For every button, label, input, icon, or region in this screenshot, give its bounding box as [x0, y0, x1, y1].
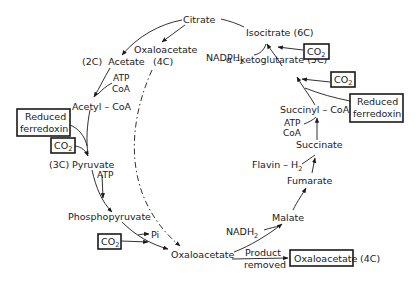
node-fumarate: Fumarate: [287, 175, 332, 186]
line-co2-right-2: [302, 79, 330, 82]
svg-text:Oxaloacetate: Oxaloacetate: [294, 253, 358, 264]
node-malate: Malate: [272, 212, 304, 223]
node-succinate: Succinate: [296, 139, 343, 150]
node-citrate: Citrate: [183, 14, 215, 25]
cofactor-atp-right: ATP: [284, 118, 301, 128]
arrow-acetyl-coa-to-pyruvate: [87, 110, 90, 154]
node-isocitrate: Isocitrate (6C): [246, 27, 314, 38]
svg-text:Reduced: Reduced: [357, 96, 398, 107]
label-removed: removed: [244, 259, 286, 270]
cofactor-pi: Pi: [151, 229, 159, 240]
arrow-atp-coa-right: [304, 117, 316, 124]
node-pyruvate: (3C) Pyruvate: [49, 159, 115, 170]
node-acetyl-coa: Acetyl – CoA: [72, 101, 132, 112]
arrow-acetate-to-acetyl-coa: [94, 68, 110, 97]
svg-text:Reduced: Reduced: [25, 111, 66, 122]
line-co2-right-1: [278, 47, 303, 50]
reductive-tca-cycle-diagram: Citrate Isocitrate (6C) α –ketoglutarate…: [0, 0, 420, 285]
line-co2-left: [75, 146, 88, 156]
node-succinyl-coa: Succinyl – CoA: [280, 104, 350, 115]
label-product-carbons: (4C): [360, 253, 380, 264]
node-phosphopyruvate: Phosphopyruvate: [68, 211, 151, 222]
line-co2-bottom: [121, 241, 148, 242]
svg-text:ferredoxin: ferredoxin: [20, 123, 68, 134]
arrow-nadh2: [264, 226, 280, 230]
box-product-oxaloacetate: Oxaloacetate: [290, 250, 358, 266]
svg-text:ferredoxin: ferredoxin: [353, 108, 401, 119]
arrow-citrate-to-oxaloacetate-top: [162, 25, 185, 42]
box-co2-right-1: CO2: [304, 44, 329, 59]
cofactor-coa-left: CoA: [112, 84, 131, 94]
cofactor-nadh2: NADH2: [226, 226, 258, 240]
arrow-atp-coa-acetyl: [98, 83, 112, 94]
box-co2-bottom: CO2: [98, 234, 121, 249]
box-co2-right-2: CO2: [331, 72, 355, 87]
box-reduced-ferredoxin-right: Reduced ferredoxin: [350, 94, 403, 122]
line-citrate-to-isocitrate: [221, 19, 244, 27]
node-oxaloacetate-bottom: Oxaloacetate: [171, 249, 235, 260]
node-acetate: (2C) Acetate: [82, 56, 145, 67]
box-co2-left: CO2: [51, 138, 75, 153]
arrow-pi: [138, 234, 149, 235]
node-oxaloacetate-top: Oxaloacetate: [134, 44, 198, 55]
cofactor-flavin-h2: Flavin – H2: [252, 159, 302, 173]
cofactor-atp-left: ATP: [113, 73, 130, 83]
node-oxaloacetate-top-carbons: (4C): [153, 56, 173, 67]
arrow-fumarate-to-succinate: [312, 158, 315, 173]
arrow-flavin: [302, 155, 315, 164]
label-product: Product: [245, 247, 281, 258]
box-reduced-ferredoxin-left: Reduced ferredoxin: [17, 109, 70, 136]
cofactor-coa-right: CoA: [283, 128, 302, 138]
arrow-malate-to-fumarate: [293, 188, 306, 210]
cofactor-atp-pyruvate: ATP: [97, 170, 114, 180]
